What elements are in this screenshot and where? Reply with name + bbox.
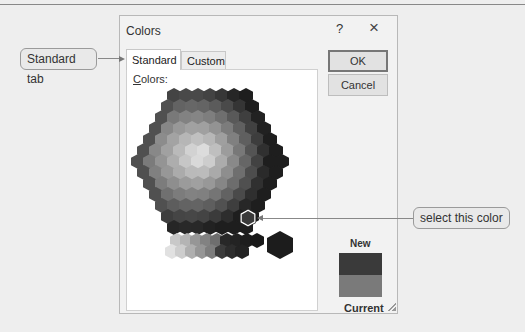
dialog-title: Colors: [126, 24, 161, 38]
tab-standard[interactable]: Standard: [126, 49, 181, 70]
tab-custom[interactable]: Custom: [181, 51, 226, 69]
current-label: Current: [344, 302, 384, 314]
question-icon[interactable]: ?: [336, 21, 343, 36]
arrow-right-icon: [119, 56, 125, 62]
selected-color-hexagon[interactable]: [240, 209, 256, 227]
colors-label-text: olors:: [141, 73, 168, 85]
cancel-button[interactable]: Cancel: [328, 74, 388, 96]
grayscale-swatches[interactable]: [170, 233, 265, 263]
arrow-left-icon: [257, 215, 263, 221]
gray-cell[interactable]: [250, 233, 264, 248]
resize-grip-icon[interactable]: [388, 303, 396, 311]
close-icon[interactable]: ×: [369, 19, 379, 36]
color-hexagon-grid[interactable]: [133, 88, 298, 228]
current-color-preview: [339, 275, 382, 297]
colors-label-accesskey: C: [133, 73, 141, 85]
top-divider: [0, 4, 525, 5]
callout-standard-tab: Standard tab: [20, 48, 97, 70]
colors-label: Colors:: [133, 73, 168, 85]
new-color-preview: [339, 253, 382, 275]
callout-line-standard: [98, 58, 120, 59]
callout-select-color: select this color: [413, 207, 510, 229]
new-label: New: [350, 238, 371, 249]
callout-line-select: [262, 218, 413, 219]
ok-button[interactable]: OK: [328, 50, 388, 72]
